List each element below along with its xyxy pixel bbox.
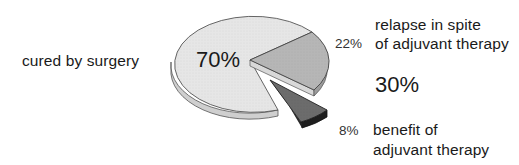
value-benefit-pct: 8% (339, 123, 359, 139)
label-benefit-line1: benefit of (373, 121, 438, 139)
label-cured-by-surgery: cured by surgery (22, 52, 139, 70)
label-relapse-line1: relapse in spite (375, 16, 481, 34)
value-cured-pct: 70% (196, 48, 240, 72)
value-adjuvant-total: 30% (375, 73, 419, 97)
value-relapse-pct: 22% (335, 36, 362, 52)
label-benefit-line2: adjuvant therapy (373, 141, 489, 159)
label-relapse-line2: of adjuvant therapy (375, 35, 509, 53)
